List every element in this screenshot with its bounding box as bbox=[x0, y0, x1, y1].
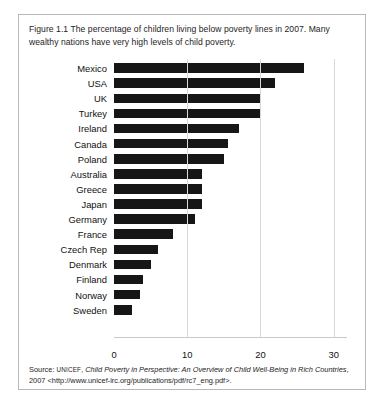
source-url: <http://www.unicef-irc.org/publications/… bbox=[48, 376, 232, 385]
x-tick-label-0: 0 bbox=[99, 349, 129, 360]
bar-track bbox=[114, 182, 363, 197]
figure-caption: Figure 1.1 The percentage of children li… bbox=[29, 23, 355, 48]
bar-row: Sweden bbox=[19, 303, 367, 318]
bar-track bbox=[114, 137, 363, 152]
bar-label-finland: Finland bbox=[19, 272, 107, 287]
bar-row: Norway bbox=[19, 288, 367, 303]
bar-track bbox=[114, 242, 363, 257]
gridline-30 bbox=[334, 59, 335, 338]
bar-greece bbox=[114, 184, 202, 194]
bar-row: Canada bbox=[19, 137, 367, 152]
bar-australia bbox=[114, 169, 202, 179]
bar-track bbox=[114, 76, 363, 91]
chart-plot-area: MexicoUSAUKTurkeyIrelandCanadaPolandAust… bbox=[19, 59, 367, 347]
bar-row: Czech Rep bbox=[19, 242, 367, 257]
bar-japan bbox=[114, 199, 202, 209]
x-axis-line bbox=[114, 337, 347, 338]
source-prefix: Source: bbox=[29, 365, 57, 374]
bar-row: Greece bbox=[19, 182, 367, 197]
bar-usa bbox=[114, 78, 275, 88]
bar-canada bbox=[114, 139, 228, 149]
bar-label-germany: Germany bbox=[19, 212, 107, 227]
bar-germany bbox=[114, 214, 195, 224]
bar-track bbox=[114, 227, 363, 242]
bar-denmark bbox=[114, 260, 151, 270]
bar-track bbox=[114, 167, 363, 182]
bar-track bbox=[114, 106, 363, 121]
bar-row: Japan bbox=[19, 197, 367, 212]
bar-row: UK bbox=[19, 91, 367, 106]
bar-czech-rep bbox=[114, 245, 158, 255]
bar-label-canada: Canada bbox=[19, 137, 107, 152]
x-axis-tick-labels: 0102030 bbox=[19, 349, 367, 365]
bar-label-turkey: Turkey bbox=[19, 106, 107, 121]
bar-row: Ireland bbox=[19, 121, 367, 136]
bar-mexico bbox=[114, 63, 304, 73]
bar-label-japan: Japan bbox=[19, 197, 107, 212]
source-title: Child Poverty in Perspective: An Overvie… bbox=[85, 365, 346, 374]
bar-france bbox=[114, 229, 173, 239]
bar-row: USA bbox=[19, 76, 367, 91]
figure-source: Source: UNICEF, Child Poverty in Perspec… bbox=[29, 365, 359, 386]
figure-frame: Figure 1.1 The percentage of children li… bbox=[18, 14, 366, 390]
bar-row: France bbox=[19, 227, 367, 242]
bar-label-sweden: Sweden bbox=[19, 303, 107, 318]
bar-label-usa: USA bbox=[19, 76, 107, 91]
bar-track bbox=[114, 272, 363, 287]
bar-track bbox=[114, 121, 363, 136]
bar-track bbox=[114, 61, 363, 76]
bar-track bbox=[114, 288, 363, 303]
bar-label-denmark: Denmark bbox=[19, 257, 107, 272]
x-tick-label-10: 10 bbox=[172, 349, 202, 360]
bar-finland bbox=[114, 275, 143, 285]
bar-poland bbox=[114, 154, 224, 164]
bar-track bbox=[114, 91, 363, 106]
source-publisher: UNICEF bbox=[57, 366, 82, 373]
bar-row: Poland bbox=[19, 152, 367, 167]
bar-row: Denmark bbox=[19, 257, 367, 272]
bar-ireland bbox=[114, 124, 239, 134]
bar-row: Finland bbox=[19, 272, 367, 287]
gridline-20 bbox=[260, 59, 261, 338]
bar-label-mexico: Mexico bbox=[19, 61, 107, 76]
bar-label-france: France bbox=[19, 227, 107, 242]
bar-label-ireland: Ireland bbox=[19, 121, 107, 136]
x-tick-label-20: 20 bbox=[245, 349, 275, 360]
bar-norway bbox=[114, 290, 140, 300]
gridline-10 bbox=[187, 59, 188, 338]
bar-track bbox=[114, 303, 363, 318]
bar-label-greece: Greece bbox=[19, 182, 107, 197]
bar-track bbox=[114, 257, 363, 272]
bar-row: Germany bbox=[19, 212, 367, 227]
bar-label-uk: UK bbox=[19, 91, 107, 106]
bar-row: Australia bbox=[19, 167, 367, 182]
bar-label-australia: Australia bbox=[19, 167, 107, 182]
bar-label-norway: Norway bbox=[19, 288, 107, 303]
bar-sweden bbox=[114, 305, 132, 315]
bar-row: Turkey bbox=[19, 106, 367, 121]
bar-track bbox=[114, 152, 363, 167]
bar-label-czech-rep: Czech Rep bbox=[19, 242, 107, 257]
bar-label-poland: Poland bbox=[19, 152, 107, 167]
bar-track bbox=[114, 197, 363, 212]
x-tick-label-30: 30 bbox=[319, 349, 349, 360]
bar-track bbox=[114, 212, 363, 227]
bar-row: Mexico bbox=[19, 61, 367, 76]
